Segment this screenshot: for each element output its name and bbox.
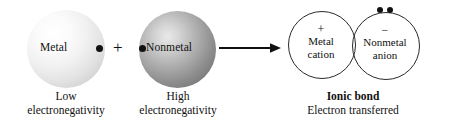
nonmetal-caption-line-1: High	[118, 90, 238, 104]
metal-caption-line-2: electronegativity	[6, 104, 126, 118]
cation-label-line-1: Metal	[288, 35, 354, 48]
metal-sphere-label: Metal	[40, 41, 67, 53]
nonmetal-anion-label: Nonmetal anion	[351, 36, 419, 61]
nonmetal-caption: High electronegativity	[118, 90, 238, 117]
anion-label-line-1: Nonmetal	[351, 36, 419, 49]
metal-cation-label: Metal cation	[288, 35, 354, 60]
anion-charge-symbol: −	[352, 25, 418, 35]
nonmetal-sphere-label: Nonmetal	[146, 41, 192, 53]
ionic-bond-diagram: Metal Low electronegativity + Nonmetal H…	[0, 0, 450, 126]
electron-pair-dot-icon	[377, 7, 383, 13]
electron-transferred-subtitle: Electron transferred	[283, 103, 423, 117]
ionic-bond-title: Ionic bond	[283, 89, 423, 103]
metal-caption-line-1: Low	[6, 90, 126, 104]
anion-label-line-2: anion	[351, 49, 419, 62]
metal-caption: Low electronegativity	[6, 90, 126, 117]
plus-operator: +	[113, 39, 123, 56]
cation-label-line-2: cation	[288, 48, 354, 61]
reaction-arrow-icon	[218, 41, 282, 59]
cation-charge-symbol: +	[288, 24, 354, 34]
nonmetal-caption-line-2: electronegativity	[118, 104, 238, 118]
electron-dot-icon	[96, 45, 103, 52]
product-caption: Ionic bond Electron transferred	[283, 89, 423, 117]
electron-dot-icon	[139, 45, 146, 52]
electron-pair-dot-icon	[387, 7, 393, 13]
